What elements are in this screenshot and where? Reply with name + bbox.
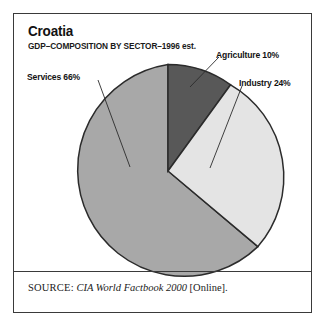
source-work-title: CIA World Factbook 2000 [76, 282, 187, 293]
pie-slice-services[interactable] [78, 65, 258, 277]
source-divider [14, 271, 311, 272]
pie-slice-agriculture[interactable] [168, 64, 231, 171]
pie-label-industry: Industry 24% [239, 78, 291, 88]
page-title: Croatia [28, 23, 73, 39]
pie-label-services: Services 66% [27, 72, 80, 82]
leader-line-agriculture [190, 57, 219, 87]
source-label: SOURCE: [28, 282, 74, 293]
leader-line-services [98, 80, 130, 167]
source-medium: [Online]. [190, 282, 228, 293]
source-note: SOURCE: CIA World Factbook 2000 [Online]… [28, 282, 228, 293]
leader-line-industry [210, 86, 242, 168]
chart-subtitle: GDP–COMPOSITION BY SECTOR–1996 est. [28, 41, 196, 51]
pie-label-agriculture: Agriculture 10% [216, 50, 279, 60]
figure-frame: Croatia GDP–COMPOSITION BY SECTOR–1996 e… [13, 13, 312, 313]
pie-slice-industry[interactable] [168, 85, 284, 247]
